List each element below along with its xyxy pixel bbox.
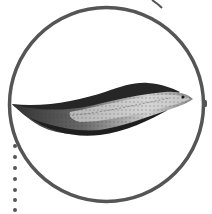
fish-icon [12,83,193,136]
fish-eye [181,95,184,98]
top-right-arc [152,0,162,8]
dotted-line [13,144,17,212]
illustration [0,0,212,214]
right-tick-mark [203,100,207,107]
